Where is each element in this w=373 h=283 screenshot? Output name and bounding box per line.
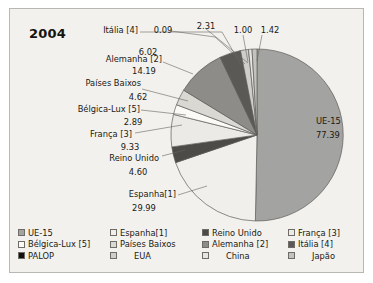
legend-item-label: Países Baixos [120, 239, 176, 249]
legend-item-label: PALOP [28, 251, 54, 261]
callout-paises-baixos-name: Países Baixos [85, 78, 141, 88]
legend-swatch-icon [288, 241, 295, 248]
chart-frame: 2004 Itália [4] 6.02 0.09 [9, 8, 364, 273]
legend-item-reino-unido[interactable]: Reino Unido [202, 227, 290, 239]
callout-espanha-value: 29.99 [123, 204, 165, 214]
legend-item-fran-a-3[interactable]: França [3] [288, 227, 364, 239]
callout-japao-value: 1.42 [255, 26, 285, 36]
callout-paises-baixos: Países Baixos [48, 79, 141, 89]
legend-item-label: EUA [134, 251, 151, 261]
legend-column-2: Espanha[1]Países BaixosEUA [110, 227, 198, 262]
callout-belgica-lux-value: 2.89 [113, 118, 153, 128]
legend-item-label: França [3] [298, 228, 340, 238]
callout-eua-value: 2.31 [191, 22, 221, 32]
callout-espanha: Espanha[1] [96, 190, 176, 200]
legend-item-label: UE-15 [28, 228, 53, 238]
legend-item-label: Alemanha [2] [212, 239, 268, 249]
legend-item-espanha-1[interactable]: Espanha[1] [110, 227, 198, 239]
legend-item-b-lgica-lux-5[interactable]: Bélgica-Lux [5] [18, 239, 106, 251]
legend-item-label: Itália [4] [298, 239, 333, 249]
callout-ue15: UE-15 [316, 117, 361, 127]
legend-swatch-icon [110, 229, 117, 236]
callout-franca: França [3] [52, 130, 132, 140]
legend-swatch-icon [18, 229, 25, 236]
legend-swatch-icon [288, 229, 295, 236]
callout-alemanha: Alemanha [2] [68, 55, 162, 65]
legend-swatch-icon [110, 241, 117, 248]
legend-item-ue-15[interactable]: UE-15 [18, 227, 106, 239]
callout-italia: Itália [4] [65, 26, 138, 36]
callout-espanha-name: Espanha[1] [129, 189, 176, 199]
legend-item-label: Japão [312, 251, 335, 261]
legend-item-eua[interactable]: EUA [110, 250, 198, 262]
legend-item-label: Reino Unido [212, 228, 262, 238]
callout-franca-value: 9.33 [110, 143, 150, 153]
legend-item-jap-o[interactable]: Japão [288, 250, 364, 262]
legend-swatch-icon [110, 252, 117, 259]
legend-item-label: China [226, 251, 250, 261]
callout-china-value: 1.00 [228, 26, 258, 36]
legend-swatch-icon [18, 252, 25, 259]
callout-reino-unido-value: 4.60 [118, 168, 158, 178]
callout-franca-name: França [3] [90, 129, 132, 139]
legend-item-china[interactable]: China [202, 250, 290, 262]
legend: UE-15Bélgica-Lux [5]PALOPEspanha[1]Paíse… [10, 227, 364, 272]
callout-alemanha-name: Alemanha [2] [106, 54, 162, 64]
callout-belgica-lux: Bélgica-Lux [5] [47, 105, 140, 115]
callout-paises-baixos-value: 4.62 [118, 93, 158, 103]
legend-column-3: Reino UnidoAlemanha [2]China [202, 227, 290, 262]
leader-line-alemanha [163, 62, 193, 74]
legend-item-pa-ses-baixos[interactable]: Países Baixos [110, 239, 198, 251]
legend-item-alemanha-2[interactable]: Alemanha [2] [202, 239, 290, 251]
callout-palop-value: 0.09 [148, 26, 178, 36]
legend-item-it-lia-4[interactable]: Itália [4] [288, 239, 364, 251]
legend-swatch-icon [202, 241, 209, 248]
legend-item-label: Bélgica-Lux [5] [28, 239, 90, 249]
callout-ue15-name: UE-15 [316, 116, 341, 126]
callout-reino-unido-name: Reino Unido [109, 153, 159, 163]
legend-swatch-icon [288, 252, 295, 259]
legend-swatch-icon [18, 241, 25, 248]
callout-ue15-value: 77.39 [316, 131, 361, 141]
legend-column-1: UE-15Bélgica-Lux [5]PALOP [18, 227, 106, 262]
legend-column-4: França [3]Itália [4]Japão [288, 227, 364, 262]
legend-item-palop[interactable]: PALOP [18, 250, 106, 262]
callout-italia-name: Itália [4] [103, 25, 138, 35]
legend-swatch-icon [202, 252, 209, 259]
callout-alemanha-value: 14.19 [124, 67, 164, 77]
legend-item-label: Espanha[1] [120, 228, 167, 238]
callout-reino-unido: Reino Unido [70, 154, 159, 164]
legend-swatch-icon [202, 229, 209, 236]
callout-belgica-lux-name: Bélgica-Lux [5] [78, 104, 140, 114]
